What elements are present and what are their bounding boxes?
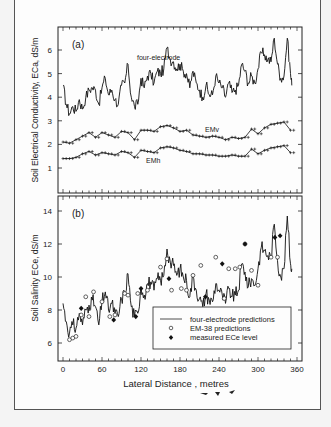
panel-a-y-tick-label: 3: [48, 117, 53, 126]
series-emv-plus-marker: [224, 138, 227, 141]
scribble-marks: [200, 390, 235, 396]
panel-b-x-tick-label: 0: [61, 365, 66, 374]
series-emv-plus-marker: [91, 131, 94, 134]
series-emh-plus-marker: [94, 154, 97, 157]
panel-b-x-tick-label: 300: [251, 365, 265, 374]
series-em-38-predictions-point: [74, 335, 78, 339]
series-emv-plus-marker: [270, 123, 273, 126]
four-electrode-label: four-electrode: [137, 54, 180, 61]
series-em-38-predictions-point: [227, 267, 231, 271]
series-emh-plus-marker: [68, 157, 71, 160]
series-emv-plus-marker: [188, 129, 191, 132]
series-emv-plus-marker: [107, 133, 110, 136]
series-em-38-predictions-point: [269, 255, 273, 259]
series-em-38-predictions-point: [185, 288, 189, 292]
series-emh-plus-marker: [166, 145, 169, 148]
series-emv-plus-marker: [179, 130, 182, 133]
panel-b-label: (b): [72, 208, 84, 219]
scribble-mark: [200, 393, 208, 395]
series-emv-plus-marker: [172, 126, 175, 129]
series-em-38-predictions-point: [250, 269, 254, 273]
series-emv-plus-marker: [68, 142, 71, 145]
series-em-38-predictions-point: [159, 265, 163, 269]
series-emv-plus-marker: [156, 130, 159, 133]
series-emv-plus-marker: [143, 129, 146, 132]
series-emh-plus-marker: [130, 151, 133, 154]
series-emh-plus-marker: [224, 155, 227, 158]
series-emh-plus-marker: [114, 154, 117, 157]
series-em-38-predictions-point: [100, 300, 104, 304]
scribble-mark: [229, 390, 235, 394]
x-axis-title: Lateral Distance , metres: [123, 378, 229, 389]
series-emv-plus-marker: [75, 138, 78, 141]
panel-a-y-tick-label: 4: [48, 93, 53, 102]
series-emh-plus-marker: [120, 150, 123, 153]
series-emv-plus-marker: [117, 136, 120, 139]
series-emh-plus-marker: [65, 157, 68, 160]
series-emh-plus-marker: [195, 152, 198, 155]
series-emv-plus-marker: [247, 136, 250, 139]
panel-a-y-tick-label: 1: [48, 164, 53, 173]
panel-a-y-tick-label: 6: [48, 46, 53, 55]
series-em-38-predictions-point: [214, 255, 218, 259]
series-emv-plus-marker: [97, 136, 100, 139]
emh-label: EMh: [146, 157, 161, 164]
series-emh-plus-marker: [198, 152, 201, 155]
legend-label-em38: EM-38 predictions: [190, 324, 251, 333]
series-emv-plus-marker: [146, 129, 149, 132]
series-emv-plus-marker: [253, 128, 256, 131]
series-em-38-predictions-point: [233, 267, 237, 271]
series-emh-plus-marker: [185, 150, 188, 153]
panel-a-plot-area: [58, 27, 302, 193]
series-emh-plus-marker: [276, 145, 279, 148]
series-em-38-predictions-point: [92, 290, 96, 294]
scribble-mark: [215, 392, 220, 396]
series-emh-plus-marker: [292, 151, 295, 154]
series-em-38-predictions-point: [179, 287, 183, 291]
series-measured-ece-level-point: [273, 235, 278, 240]
panel-b-y-tick-label: 12: [43, 240, 52, 249]
panel-b-x-tick-label: 120: [134, 365, 148, 374]
series-emh-plus-marker: [156, 151, 159, 154]
series-emv-line: [63, 122, 291, 143]
series-em-38-predictions-point: [84, 295, 88, 299]
series-em-38-predictions-point: [276, 255, 280, 259]
series-emv-plus-marker: [260, 132, 263, 135]
legend: four-electrode predictions EM-38 predict…: [153, 307, 291, 349]
series-emv-plus-marker: [136, 138, 139, 141]
series-emh-plus-marker: [62, 157, 65, 160]
series-four-electrode-line: [63, 38, 292, 115]
series-emv-plus-marker: [231, 136, 234, 139]
series-emh-plus-marker: [240, 155, 243, 158]
series-emv-plus-marker: [198, 135, 201, 138]
panel-b-y-axis-title: Soil Salinity ECe, dS/m: [30, 234, 40, 321]
series-em-38-predictions-point: [256, 283, 260, 287]
series-emv-plus-marker: [211, 135, 214, 138]
panel-a-ticks: 123456: [48, 27, 302, 193]
series-emv-plus-marker: [286, 120, 289, 123]
series-em-38-predictions-point: [79, 313, 83, 317]
panel-a-y-tick-label: 5: [48, 70, 53, 79]
series-emh-plus-marker: [231, 154, 234, 157]
series-emh-plus-marker: [88, 150, 91, 153]
series-emh-plus-marker: [211, 154, 214, 157]
series-em-38-predictions-point: [108, 315, 112, 319]
series-emv-plus-marker: [130, 131, 133, 134]
series-em-38-predictions-point: [146, 288, 150, 292]
series-emh-plus-marker: [208, 154, 211, 157]
series-measured-ece-level-point: [79, 306, 84, 311]
series-emh-plus-marker: [218, 155, 221, 158]
panel-b-y-tick-label: 14: [43, 207, 52, 216]
series-emh-plus-marker: [75, 156, 78, 159]
series-em-38-predictions-point: [126, 293, 130, 297]
panel-a-label: (a): [72, 39, 84, 50]
series-emh-plus-marker: [172, 146, 175, 149]
series-em-38-predictions-point: [136, 292, 140, 296]
legend-label-four-electrode: four-electrode predictions: [190, 315, 275, 324]
series-emh-plus-marker: [101, 151, 104, 154]
panel-b-x-tick-label: 240: [212, 365, 226, 374]
series-emv-plus-marker: [292, 129, 295, 132]
series-emh-plus-marker: [192, 152, 195, 155]
panel-b-x-tick-label: 60: [98, 365, 107, 374]
emv-label: EMv: [205, 126, 220, 133]
